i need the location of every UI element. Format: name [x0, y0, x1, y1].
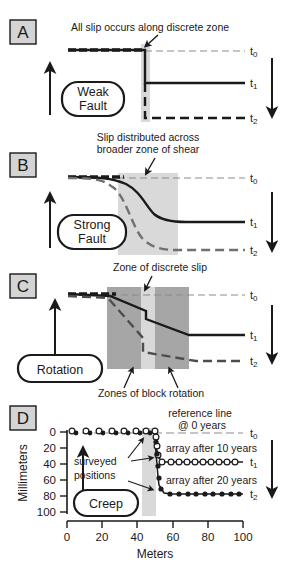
panel-d-chart: D 0 20 40 60 80 100: [10, 406, 272, 561]
chart-surveyed-label-line1: surveyed: [74, 455, 117, 467]
panel-a-t1-line: [68, 50, 245, 83]
chart-xtick-100: 100: [233, 531, 252, 543]
chart-t1-label: t1: [250, 456, 258, 470]
panel-c-t0-label: t0: [250, 289, 258, 303]
panel-b-caption-line1: Slip distributed across: [97, 131, 200, 143]
panel-b-caption-line2: broader zone of shear: [97, 143, 200, 155]
panel-b-model-label-line2: Fault: [78, 232, 106, 246]
panel-b: B Slip distributed across broader zone o…: [10, 131, 272, 258]
panel-b-letter: B: [17, 156, 28, 175]
panel-d-letter: D: [17, 409, 29, 428]
chart-xtick-80: 80: [202, 531, 215, 543]
chart-surveyed-label-line2: positions: [74, 469, 115, 481]
panel-a-t1-label: t1: [250, 77, 258, 91]
panel-c-t1-label: t1: [250, 329, 258, 343]
chart-x-ticks: [67, 521, 243, 528]
chart-y-ticks: [60, 432, 67, 512]
panel-c-left-rotation-zone: [107, 287, 141, 369]
panel-b-t1-label: t1: [250, 216, 258, 230]
panel-c: C Zone of discrete slip t0 t1 t2 Rotatio…: [10, 261, 272, 399]
chart-x-tick-labels: 0 20 40 60 80 100: [64, 531, 253, 543]
panel-c-caption-arrow: [146, 276, 152, 288]
chart-ytick-60: 60: [43, 474, 56, 486]
panel-a-model-label-line1: Weak: [77, 85, 109, 99]
figure-fault-slip-models: A All slip occurs along discrete zone t0…: [0, 0, 294, 565]
chart-ytick-0: 0: [50, 426, 56, 438]
chart-surveyed-arrow-top: [128, 440, 142, 458]
chart-ytick-40: 40: [43, 458, 56, 470]
chart-ytick-100: 100: [37, 506, 56, 518]
panel-c-caption-bottom: Zones of block rotation: [98, 387, 204, 399]
panel-c-discrete-slip-zone: [141, 287, 155, 369]
panel-b-model-label-line1: Strong: [74, 218, 111, 232]
panel-a-t2-label: t2: [250, 112, 258, 126]
chart-t2-label: t2: [250, 488, 258, 502]
chart-ytick-20: 20: [43, 442, 56, 454]
panel-a-model-label-line2: Fault: [79, 99, 107, 113]
chart-series-10yr-label: array after 10 years: [166, 442, 257, 454]
panel-a: A All slip occurs along discrete zone t0…: [10, 20, 272, 126]
chart-reference-years-label: @ 0 years: [178, 419, 226, 431]
panel-c-t2-label: t2: [250, 355, 258, 369]
panel-c-caption: Zone of discrete slip: [113, 261, 207, 273]
panel-a-t0-label: t0: [250, 45, 258, 59]
panel-c-bottom-arrow-right: [170, 370, 178, 388]
panel-a-caption-arrow: [147, 35, 158, 45]
chart-xtick-20: 20: [96, 531, 109, 543]
chart-ytick-80: 80: [43, 490, 56, 502]
panel-c-model-label: Rotation: [37, 363, 84, 377]
panel-b-t2-label: t2: [250, 244, 258, 258]
figure-svg: A All slip occurs along discrete zone t0…: [0, 0, 294, 565]
panel-a-caption: All slip occurs along discrete zone: [71, 21, 229, 33]
chart-reference-line-label: reference line: [168, 407, 232, 419]
chart-t0-label: t0: [250, 427, 258, 441]
chart-xtick-40: 40: [131, 531, 144, 543]
panel-a-letter: A: [17, 23, 29, 42]
chart-series-20yr-label: array after 20 years: [166, 474, 257, 486]
panel-c-bottom-arrow-left: [124, 370, 132, 388]
chart-xtick-60: 60: [167, 531, 180, 543]
chart-y-axis-label: Millimeters: [16, 444, 30, 501]
panel-b-t0-label: t0: [250, 172, 258, 186]
panel-c-letter: C: [17, 277, 29, 296]
panel-d-model-label: Creep: [89, 497, 123, 511]
panel-a-t2-line: [145, 83, 245, 118]
chart-y-tick-labels: 0 20 40 60 80 100: [37, 426, 56, 518]
chart-xtick-0: 0: [64, 531, 70, 543]
chart-x-axis-label: Meters: [137, 547, 174, 561]
panel-b-caption-arrow: [147, 158, 155, 172]
